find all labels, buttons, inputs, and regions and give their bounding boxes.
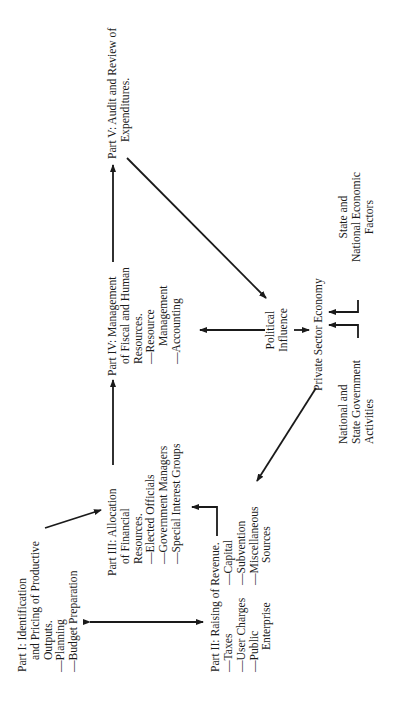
- part2-col2: —Capital —Subvention —Miscellaneous Sour…: [223, 506, 274, 585]
- state-line2: National Economic: [351, 172, 364, 262]
- state-line3: Factors: [364, 172, 377, 262]
- part4-item-accounting: —Accounting: [171, 267, 184, 376]
- part2-item-user-charges: —User Charges: [236, 598, 249, 672]
- part4-block: Part IV: Management of Fiscal and Human …: [107, 267, 184, 376]
- part3-item-interest: —Special Interest Groups: [171, 444, 184, 576]
- part2-item-sources: Sources: [261, 506, 274, 585]
- political-line2: Influence: [278, 308, 291, 352]
- part5-title-line1: Part V: Audit and Review of: [107, 28, 120, 159]
- arrow-nationalstate-private: [329, 325, 358, 338]
- part3-block: Part III: Allocation of Financial Resour…: [107, 444, 184, 576]
- state-national-economic: State and National Economic Factors: [338, 172, 376, 262]
- state-line1: State and: [338, 172, 351, 262]
- part4-title-line2: of Fiscal and Human: [120, 267, 133, 376]
- part2-item-capital: —Capital: [223, 506, 236, 585]
- part2-title: Part II: Raising of Revenue.: [210, 542, 223, 672]
- national-line2: State Government: [351, 360, 364, 444]
- part5-block: Part V: Audit and Review of Expenditures…: [107, 28, 133, 159]
- national-state-government: National and State Government Activities: [338, 360, 376, 444]
- political-influence: Political Influence: [265, 308, 291, 352]
- part1-title-line1: Part I: Identification: [17, 541, 30, 672]
- part2-item-taxes: —Taxes: [223, 598, 236, 672]
- arrow-part2-part3: [192, 507, 217, 536]
- arrow-private-part2: [257, 388, 316, 481]
- national-line1: National and: [338, 360, 351, 444]
- private-sector-label: Private Sector Economy: [313, 278, 326, 391]
- part4-title-line1: Part IV: Management: [107, 267, 120, 376]
- part3-title-line2: of Financial: [120, 444, 133, 576]
- arrow-stateeconomic-private: [329, 300, 358, 312]
- part1-title-line2: and Pricing of Productive: [30, 541, 43, 672]
- part2-col1: —Taxes —User Charges —Public Enterprise: [223, 598, 274, 672]
- part2-item-enterprise: Enterprise: [261, 598, 274, 672]
- part3-title-line1: Part III: Allocation: [107, 444, 120, 576]
- part2-block: Part II: Raising of Revenue.: [210, 542, 223, 672]
- part5-title-line2: Expenditures.: [120, 28, 133, 159]
- part2-item-subvention: —Subvention: [236, 506, 249, 585]
- national-line3: Activities: [364, 360, 377, 444]
- private-sector-economy: Private Sector Economy: [313, 278, 326, 391]
- part1-item-budget: —Budget Preparation: [68, 541, 81, 672]
- part1-block: Part I: Identification and Pricing of Pr…: [17, 541, 81, 672]
- arrow-part1-part3: [45, 510, 101, 528]
- political-line1: Political: [265, 308, 278, 352]
